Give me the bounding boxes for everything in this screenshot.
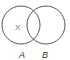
venn-diagram: X A B — [0, 0, 70, 60]
set-label-b: B — [42, 50, 48, 60]
circle-a — [2, 6, 40, 44]
circle-b — [27, 6, 65, 44]
set-label-a: A — [18, 50, 25, 60]
region-label-x: X — [15, 23, 21, 32]
